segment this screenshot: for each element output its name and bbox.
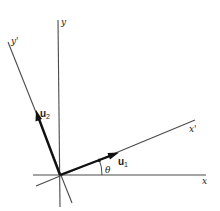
y-prime-axis-label: y' [10,36,19,46]
u2-label: u2 [40,108,50,120]
theta-label: θ [105,165,111,175]
x-axis-label: x [202,176,207,186]
y-axis-label: y [60,17,67,27]
x-prime-axis-label: x' [189,124,197,134]
rotated-axes-diagram: y y' x' x θ u1 u2 [0,0,220,211]
u1-label: u1 [118,156,128,168]
y-axis [58,20,60,207]
